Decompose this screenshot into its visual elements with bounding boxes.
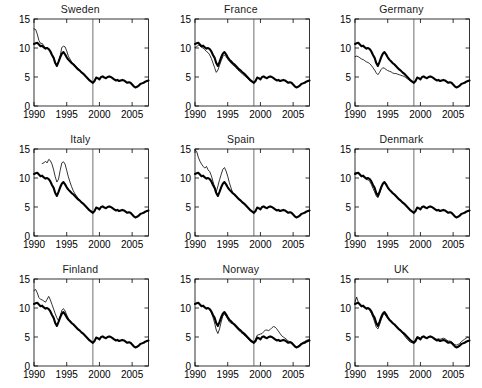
plot-area: 0510151990199520002005 bbox=[0, 130, 161, 260]
y-tick-label: 10 bbox=[340, 43, 352, 54]
x-tick-label: 1995 bbox=[216, 109, 239, 120]
x-tick-label: 1995 bbox=[377, 369, 400, 380]
y-tick-label: 15 bbox=[19, 14, 31, 25]
plot-area: 0510151990199520002005 bbox=[321, 130, 482, 260]
chart-panel-finland: Finland0510151990199520002005 bbox=[0, 260, 161, 388]
plot-area: 0510151990199520002005 bbox=[161, 0, 322, 130]
series-line-thin bbox=[42, 159, 93, 212]
plot-area: 0510151990199520002005 bbox=[161, 260, 322, 388]
x-tick-label: 2000 bbox=[410, 369, 433, 380]
x-tick-label: 1995 bbox=[56, 369, 79, 380]
y-tick-label: 5 bbox=[346, 202, 352, 213]
x-tick-label: 2000 bbox=[249, 239, 272, 250]
x-tick-label: 1990 bbox=[183, 239, 206, 250]
plot-area: 0510151990199520002005 bbox=[0, 260, 161, 388]
y-tick-label: 10 bbox=[340, 303, 352, 314]
x-tick-label: 1995 bbox=[216, 239, 239, 250]
y-tick-label: 15 bbox=[340, 14, 352, 25]
axis-box bbox=[34, 279, 148, 366]
x-tick-label: 2005 bbox=[442, 239, 465, 250]
y-tick-label: 5 bbox=[24, 202, 30, 213]
x-tick-label: 2005 bbox=[282, 239, 305, 250]
series-line-thick bbox=[34, 303, 148, 348]
y-tick-label: 15 bbox=[19, 144, 31, 155]
y-tick-label: 15 bbox=[179, 274, 191, 285]
x-tick-label: 1995 bbox=[56, 239, 79, 250]
axis-box bbox=[195, 279, 309, 366]
plot-area: 0510151990199520002005 bbox=[321, 0, 482, 130]
x-tick-label: 2005 bbox=[121, 109, 144, 120]
axis-box bbox=[195, 149, 309, 236]
y-tick-label: 10 bbox=[19, 303, 31, 314]
axis-box bbox=[355, 149, 469, 236]
y-tick-label: 10 bbox=[179, 303, 191, 314]
y-tick-label: 10 bbox=[179, 43, 191, 54]
series-line-thin bbox=[195, 45, 254, 83]
chart-panel-germany: Germany0510151990199520002005 bbox=[321, 0, 482, 130]
y-tick-label: 10 bbox=[179, 173, 191, 184]
x-tick-label: 1990 bbox=[344, 239, 367, 250]
series-line-thin bbox=[355, 56, 414, 83]
axis-box bbox=[195, 19, 309, 106]
series-line-thin bbox=[195, 303, 309, 347]
series-line-thick bbox=[355, 43, 469, 88]
series-line-thick bbox=[34, 173, 148, 218]
y-tick-label: 5 bbox=[346, 332, 352, 343]
chart-panel-norway: Norway0510151990199520002005 bbox=[161, 260, 322, 388]
y-tick-label: 15 bbox=[179, 144, 191, 155]
plot-area: 0510151990199520002005 bbox=[0, 0, 161, 130]
series-line-thin bbox=[355, 173, 414, 213]
chart-panel-uk: UK0510151990199520002005 bbox=[321, 260, 482, 388]
y-tick-label: 5 bbox=[185, 202, 191, 213]
x-tick-label: 1990 bbox=[183, 369, 206, 380]
plot-area: 0510151990199520002005 bbox=[321, 260, 482, 388]
axis-box bbox=[355, 279, 469, 366]
x-tick-label: 1995 bbox=[56, 109, 79, 120]
x-tick-label: 1995 bbox=[377, 109, 400, 120]
series-line-thick bbox=[34, 43, 148, 88]
series-line-thick bbox=[195, 303, 309, 348]
chart-panel-france: France0510151990199520002005 bbox=[161, 0, 322, 130]
chart-panel-spain: Spain0510151990199520002005 bbox=[161, 130, 322, 260]
y-tick-label: 5 bbox=[185, 72, 191, 83]
y-tick-label: 5 bbox=[346, 72, 352, 83]
chart-panel-sweden: Sweden0510151990199520002005 bbox=[0, 0, 161, 130]
series-line-thick bbox=[195, 43, 309, 88]
y-tick-label: 10 bbox=[340, 173, 352, 184]
plot-area: 0510151990199520002005 bbox=[161, 130, 322, 260]
axis-box bbox=[355, 19, 469, 106]
series-line-thick bbox=[355, 303, 469, 348]
x-tick-label: 2000 bbox=[88, 109, 111, 120]
y-tick-label: 10 bbox=[19, 173, 31, 184]
y-tick-label: 15 bbox=[340, 144, 352, 155]
y-tick-label: 10 bbox=[19, 43, 31, 54]
chart-grid: Sweden0510151990199520002005France051015… bbox=[0, 0, 482, 388]
axis-box bbox=[34, 19, 148, 106]
y-tick-label: 5 bbox=[24, 332, 30, 343]
x-tick-label: 2000 bbox=[410, 239, 433, 250]
x-tick-label: 2005 bbox=[121, 369, 144, 380]
x-tick-label: 1990 bbox=[23, 369, 46, 380]
x-tick-label: 1990 bbox=[23, 239, 46, 250]
y-tick-label: 15 bbox=[179, 14, 191, 25]
x-tick-label: 2000 bbox=[88, 239, 111, 250]
x-tick-label: 2005 bbox=[442, 369, 465, 380]
chart-panel-denmark: Denmark0510151990199520002005 bbox=[321, 130, 482, 260]
series-line-thick bbox=[355, 173, 469, 218]
x-tick-label: 1995 bbox=[377, 239, 400, 250]
x-tick-label: 1990 bbox=[183, 109, 206, 120]
x-tick-label: 1990 bbox=[344, 109, 367, 120]
y-tick-label: 5 bbox=[24, 72, 30, 83]
x-tick-label: 2005 bbox=[282, 109, 305, 120]
y-tick-label: 5 bbox=[185, 332, 191, 343]
x-tick-label: 2005 bbox=[442, 109, 465, 120]
x-tick-label: 2000 bbox=[249, 109, 272, 120]
x-tick-label: 2000 bbox=[410, 109, 433, 120]
series-line-thin bbox=[355, 297, 469, 345]
y-tick-label: 15 bbox=[19, 274, 31, 285]
x-tick-label: 2000 bbox=[88, 369, 111, 380]
x-tick-label: 1995 bbox=[216, 369, 239, 380]
x-tick-label: 2000 bbox=[249, 369, 272, 380]
x-tick-label: 1990 bbox=[23, 109, 46, 120]
x-tick-label: 2005 bbox=[121, 239, 144, 250]
